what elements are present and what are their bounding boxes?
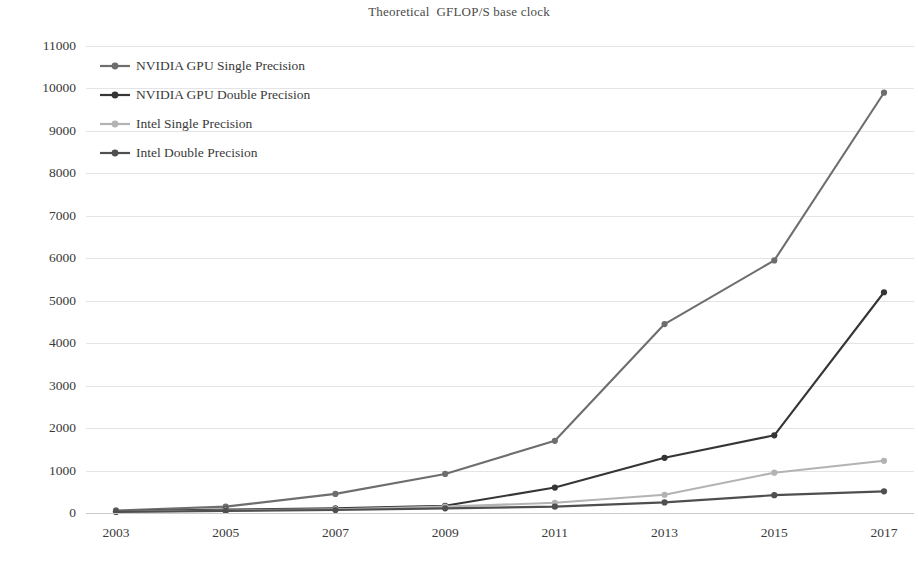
data-point-marker [552,504,558,510]
legend-marker-icon [100,147,130,159]
y-tick-label: 10000 [14,80,76,96]
data-point-marker [442,505,448,511]
data-point-marker [771,492,777,498]
data-point-marker [881,289,887,295]
y-tick-label: 4000 [14,335,76,351]
x-tick-label: 2009 [400,525,490,541]
y-tick-label: 1000 [14,463,76,479]
legend-marker-icon [100,60,130,72]
chart-container: Theoretical GFLOP/S base clock 010002000… [0,0,918,566]
legend-item[interactable]: NVIDIA GPU Single Precision [100,58,310,74]
y-tick-label: 0 [14,505,76,521]
data-point-marker [771,470,777,476]
data-point-marker [552,438,558,444]
data-point-marker [881,488,887,494]
y-tick-label: 8000 [14,165,76,181]
data-point-marker [661,321,667,327]
data-point-marker [113,509,119,515]
data-point-marker [332,491,338,497]
chart-legend: NVIDIA GPU Single PrecisionNVIDIA GPU Do… [100,58,310,161]
data-point-marker [661,492,667,498]
y-tick-label: 7000 [14,208,76,224]
data-point-marker [552,484,558,490]
legend-label: NVIDIA GPU Double Precision [136,87,310,103]
y-tick-label: 2000 [14,420,76,436]
data-point-marker [661,499,667,505]
y-tick-label: 6000 [14,250,76,266]
y-tick-label: 3000 [14,378,76,394]
x-tick-label: 2007 [290,525,380,541]
x-tick-label: 2011 [510,525,600,541]
x-tick-label: 2015 [729,525,819,541]
data-point-marker [771,257,777,263]
x-tick-label: 2017 [839,525,918,541]
y-tick-label: 11000 [14,38,76,54]
legend-label: Intel Double Precision [136,145,257,161]
data-point-marker [442,471,448,477]
legend-marker-icon [100,118,130,130]
series-line [116,292,884,511]
x-tick-label: 2013 [620,525,710,541]
legend-label: Intel Single Precision [136,116,252,132]
legend-item[interactable]: NVIDIA GPU Double Precision [100,87,310,103]
x-tick-label: 2005 [181,525,271,541]
legend-marker-icon [100,89,130,101]
data-point-marker [661,455,667,461]
data-point-marker [771,432,777,438]
y-tick-label: 9000 [14,123,76,139]
legend-label: NVIDIA GPU Single Precision [136,58,305,74]
data-point-marker [881,90,887,96]
legend-item[interactable]: Intel Single Precision [100,116,310,132]
data-point-marker [881,458,887,464]
series-line [116,461,884,512]
y-tick-label: 5000 [14,293,76,309]
x-axis-line [86,513,914,514]
chart-title: Theoretical GFLOP/S base clock [0,4,918,20]
x-tick-label: 2003 [71,525,161,541]
legend-item[interactable]: Intel Double Precision [100,145,310,161]
